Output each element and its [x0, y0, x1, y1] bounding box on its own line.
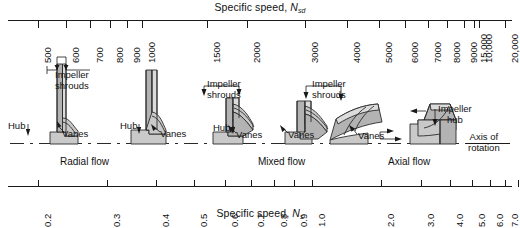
- vanes-2-label: Vanes: [160, 129, 186, 140]
- flow-region-axial-label: Axial flow: [388, 156, 430, 167]
- vanes-4-label: Vanes: [288, 130, 314, 141]
- flow-region-mixed-label: Mixed flow: [258, 156, 305, 167]
- flow-region-radial-label: Radial flow: [60, 156, 109, 167]
- vanes-3-label: Vanes: [236, 130, 262, 141]
- impeller-shrouds-2-label: Impellershrouds: [207, 79, 241, 100]
- impeller-shrouds-3-label: Impellershrouds: [312, 79, 346, 100]
- vanes-5-label: Vanes: [358, 131, 384, 142]
- hub-3-label: Hub: [213, 123, 230, 134]
- hub-1-label: Hub: [8, 121, 25, 132]
- hub-2-label: Hub: [120, 121, 137, 132]
- specific-speed-figure: Specific speed, Nsd 50060070080090010001…: [0, 0, 520, 228]
- axis-of-rotation-line1: Axis of: [470, 131, 499, 142]
- impeller-shrouds-1-label: Impellershrouds: [55, 70, 89, 91]
- vanes-1-label: Vanes: [62, 129, 88, 140]
- impeller-hub-label: Impellerhub: [438, 104, 472, 125]
- axis-of-rotation-underline: [466, 143, 510, 144]
